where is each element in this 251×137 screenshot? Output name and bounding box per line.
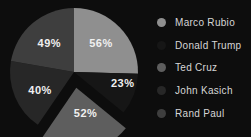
- slice-label: 56%: [89, 37, 113, 49]
- legend-label: Ted Cruz: [175, 62, 217, 73]
- legend-item-john-kasich: John Kasich: [157, 79, 251, 102]
- legend-label: Donald Trump: [175, 40, 241, 51]
- legend-label: Rand Paul: [175, 108, 224, 119]
- slice-label: 52%: [74, 107, 98, 119]
- pie-chart-panel: 56%23%52%40%49%: [0, 0, 155, 137]
- legend-item-marco-rubio: Marco Rubio: [157, 11, 251, 34]
- legend-item-donald-trump: Donald Trump: [157, 34, 251, 57]
- legend-label: Marco Rubio: [175, 17, 235, 28]
- slice-label: 40%: [28, 84, 52, 96]
- legend-item-ted-cruz: Ted Cruz: [157, 56, 251, 79]
- chart-legend: Marco Rubio Donald Trump Ted Cruz John K…: [157, 11, 251, 124]
- legend-marker-icon: [157, 18, 166, 27]
- slice-label: 23%: [111, 77, 135, 89]
- legend-item-rand-paul: Rand Paul: [157, 102, 251, 125]
- legend-marker-icon: [157, 86, 166, 95]
- legend-marker-icon: [157, 109, 166, 118]
- slice-label: 49%: [38, 37, 62, 49]
- pie-chart: 56%23%52%40%49%: [0, 0, 155, 137]
- legend-label: John Kasich: [175, 85, 233, 96]
- legend-marker-icon: [157, 41, 166, 50]
- legend-marker-icon: [157, 63, 166, 72]
